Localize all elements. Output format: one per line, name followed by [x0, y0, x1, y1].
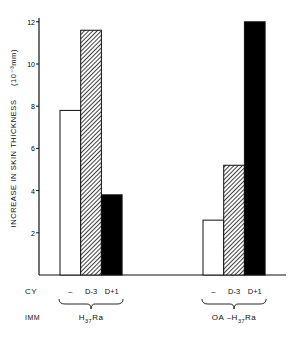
imm-label: OA –H37Ra [183, 313, 285, 324]
group-brace [59, 299, 123, 309]
bars [59, 22, 266, 309]
bar-open [60, 110, 81, 275]
bar-hatched [81, 30, 102, 275]
y-tick-label: 12 [27, 19, 35, 26]
y-tick-label: 6 [31, 145, 35, 152]
y-axis-unit: (10⁻³mm) [9, 49, 18, 86]
cy-label: D-3 [224, 287, 245, 296]
cy-row-label: CY [25, 287, 37, 296]
bar-chart: 24681012 INCREASE IN SKIN THICKNESS (10⁻… [0, 0, 298, 337]
y-axis-label: INCREASE IN SKIN THICKNESS (10⁻³mm) [9, 78, 18, 228]
group-brace [202, 299, 266, 309]
bar-solid-black [244, 22, 265, 275]
y-tick-label: 4 [31, 188, 35, 195]
cy-label: – [203, 287, 224, 296]
y-tick-label: 8 [31, 103, 35, 110]
y-axis-title: INCREASE IN SKIN THICKNESS [9, 100, 18, 228]
cy-label: D+1 [244, 287, 265, 296]
caption-fragment [0, 327, 298, 337]
y-tick-label: 10 [27, 61, 35, 68]
cy-label: – [60, 287, 81, 296]
y-tick-label: 2 [31, 230, 35, 237]
cy-label: D+1 [101, 287, 122, 296]
imm-label: H37Ra [40, 313, 142, 324]
cy-label: D-3 [81, 287, 102, 296]
bar-hatched [224, 165, 245, 275]
imm-row-label: IMM [25, 314, 40, 321]
bar-solid-black [101, 195, 122, 275]
y-ticks: 24681012 [27, 19, 39, 237]
bar-open [203, 220, 224, 275]
